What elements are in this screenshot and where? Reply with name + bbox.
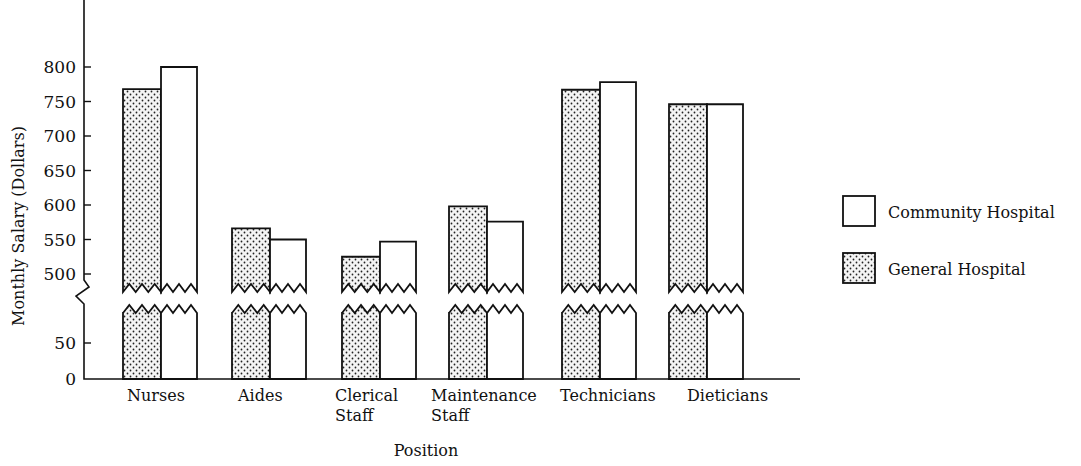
legend-label: General Hospital [888, 260, 1026, 279]
legend-swatch [843, 253, 875, 283]
y-tick-label: 550 [44, 230, 76, 250]
legend: Community HospitalGeneral Hospital [843, 196, 1055, 283]
y-tick-label: 750 [44, 92, 76, 112]
y-tick-label: 600 [44, 195, 76, 215]
legend-label: Community Hospital [888, 203, 1055, 222]
x-tick-label: Technicians [560, 386, 656, 405]
x-tick-label: Aides [237, 386, 283, 405]
x-tick-label: Staff [431, 406, 471, 425]
bar-lower [562, 305, 600, 379]
bar-upper [669, 104, 707, 292]
y-tick-label: 700 [44, 126, 76, 146]
bar-lower [342, 305, 380, 379]
y-tick-label: 0 [65, 369, 76, 389]
bar-lower [600, 305, 636, 379]
y-tick-label: 500 [44, 264, 76, 284]
x-tick-label: Staff [335, 406, 375, 425]
bar-lower [123, 305, 161, 379]
bar-upper [600, 82, 636, 292]
bar-lower [270, 305, 306, 379]
y-tick-label: 50 [54, 333, 76, 353]
bar-lower [232, 305, 270, 379]
bar-upper [449, 206, 487, 292]
bar-chart: 500550600650700750800050 NursesAidesCler… [0, 0, 1081, 466]
bar-upper [380, 242, 416, 292]
y-tick-label: 650 [44, 161, 76, 181]
x-axis-label: Position [394, 441, 459, 460]
bar-upper [562, 90, 600, 292]
y-tick-label: 800 [44, 57, 76, 77]
bar-upper [232, 228, 270, 292]
y-axis-label: Monthly Salary (Dollars) [9, 126, 28, 326]
x-tick-label: Dieticians [687, 386, 768, 405]
x-tick-label: Clerical [335, 386, 398, 405]
bar-lower [707, 305, 743, 379]
bar-upper [342, 257, 380, 292]
bar-lower [380, 305, 416, 379]
bar-upper [161, 67, 197, 292]
bars [123, 67, 743, 379]
bar-lower [449, 305, 487, 379]
category-labels: NursesAidesClericalStaffMaintenanceStaff… [127, 386, 768, 425]
x-tick-label: Nurses [127, 386, 185, 405]
legend-swatch [843, 196, 875, 226]
bar-upper [487, 222, 523, 292]
bar-lower [161, 305, 197, 379]
bar-lower [487, 305, 523, 379]
bar-upper [707, 104, 743, 292]
bar-upper [123, 89, 161, 292]
x-tick-label: Maintenance [431, 386, 537, 405]
bar-lower [669, 305, 707, 379]
bar-upper [270, 240, 306, 293]
